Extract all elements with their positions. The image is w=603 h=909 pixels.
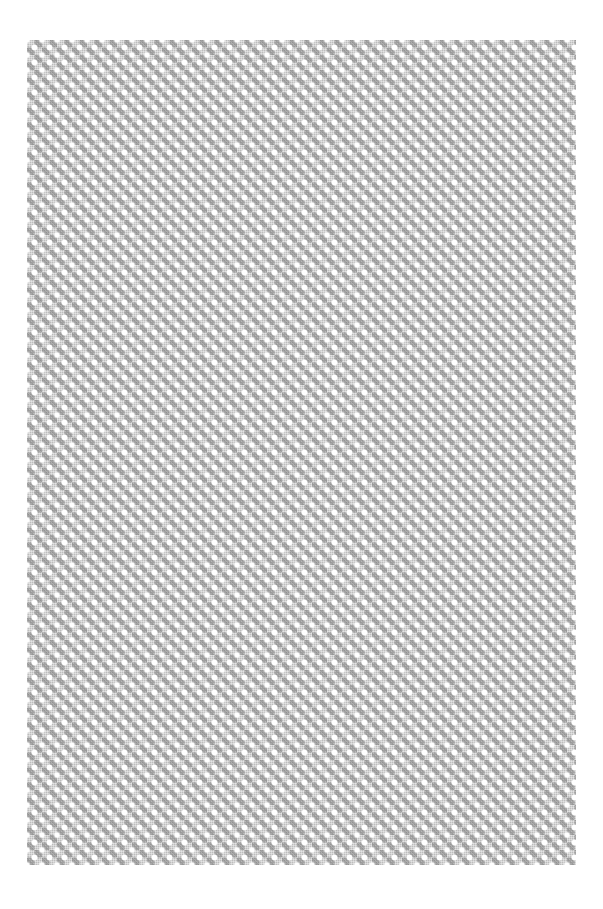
decorative-pattern-panel [27, 40, 576, 865]
